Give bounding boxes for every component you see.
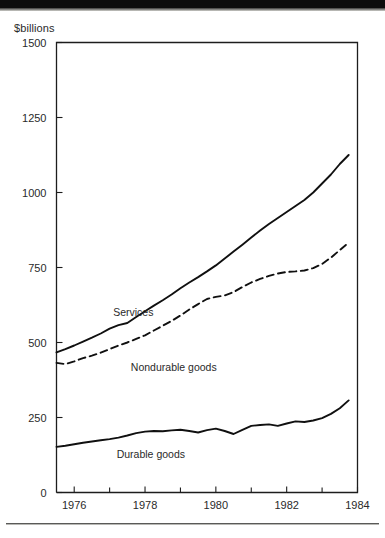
- series-label-durable-goods: Durable goods: [117, 448, 185, 460]
- series-label-services: Services: [113, 306, 153, 318]
- x-tick-label: 1978: [133, 499, 157, 511]
- y-tick-label: 500: [28, 337, 46, 349]
- x-tick-group: 19761978198019821984: [62, 487, 370, 511]
- series-annotation-group: ServicesNondurable goodsDurable goods: [113, 306, 217, 461]
- y-tick-label: 1250: [22, 112, 46, 124]
- x-tick-label: 1984: [345, 499, 369, 511]
- y-tick-label: 750: [28, 262, 46, 274]
- y-tick-label: 0: [40, 487, 46, 499]
- line-chart-plot: 0250500750100012501500 19761978198019821…: [0, 0, 385, 538]
- x-tick-label: 1982: [274, 499, 298, 511]
- x-tick-label: 1976: [62, 499, 86, 511]
- x-tick-label: 1980: [204, 499, 228, 511]
- series-line-durable-goods: [57, 400, 349, 447]
- series-line-services: [57, 155, 349, 352]
- chart-figure: $billions 0250500750100012501500 1976197…: [0, 0, 385, 538]
- page-bottom-rule: [6, 523, 379, 524]
- series-label-nondurable-goods: Nondurable goods: [131, 361, 217, 373]
- data-series-group: [57, 155, 349, 447]
- y-tick-label: 250: [28, 412, 46, 424]
- series-line-nondurable-goods: [57, 243, 349, 365]
- y-tick-label: 1000: [22, 187, 46, 199]
- y-tick-label: 1500: [22, 37, 46, 49]
